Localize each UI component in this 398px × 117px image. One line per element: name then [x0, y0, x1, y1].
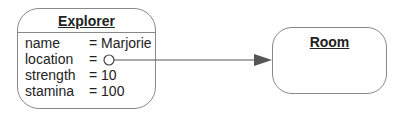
reference-origin-circle-icon	[104, 55, 114, 65]
arrowhead-icon	[254, 54, 272, 66]
reference-connector	[0, 0, 398, 117]
